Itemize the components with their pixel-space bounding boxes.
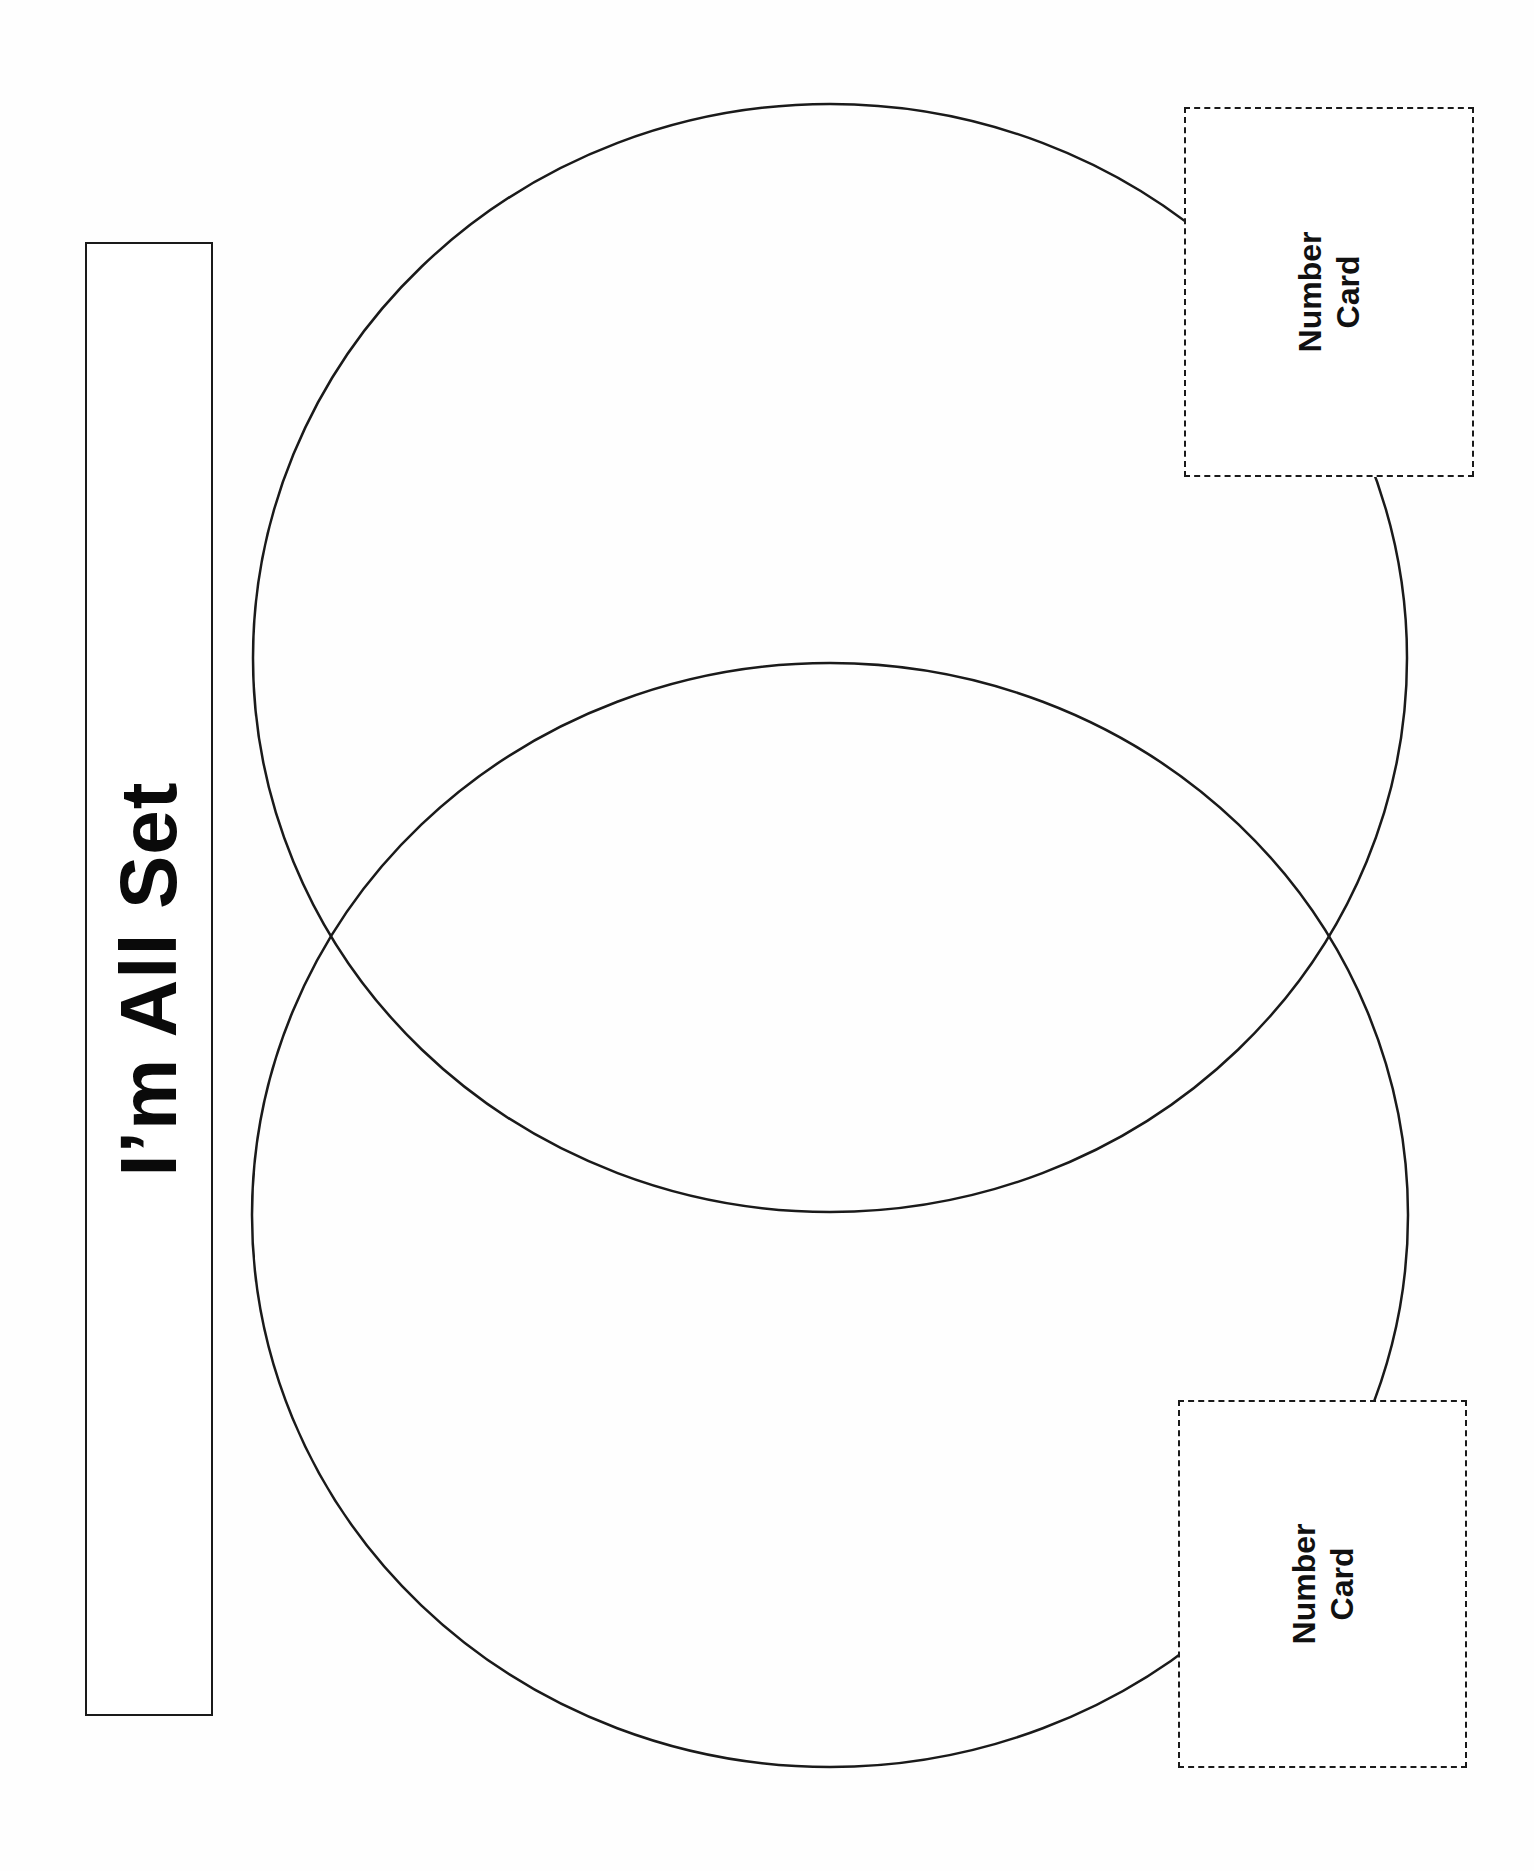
number-card-bottom[interactable]: Number Card [1178, 1400, 1467, 1768]
title-banner: I’m All Set [85, 242, 213, 1716]
number-card-label-line1: Number [1291, 232, 1329, 353]
page-title: I’m All Set [103, 782, 195, 1177]
number-card-top[interactable]: Number Card [1184, 107, 1474, 477]
worksheet-page: I’m All Set Number Card Number Card [0, 0, 1534, 1871]
number-card-label-line2: Card [1323, 1524, 1361, 1645]
number-card-label: Number Card [1291, 232, 1367, 353]
number-card-label-line2: Card [1329, 232, 1367, 353]
number-card-label: Number Card [1285, 1524, 1361, 1645]
number-card-label-line1: Number [1285, 1524, 1323, 1645]
